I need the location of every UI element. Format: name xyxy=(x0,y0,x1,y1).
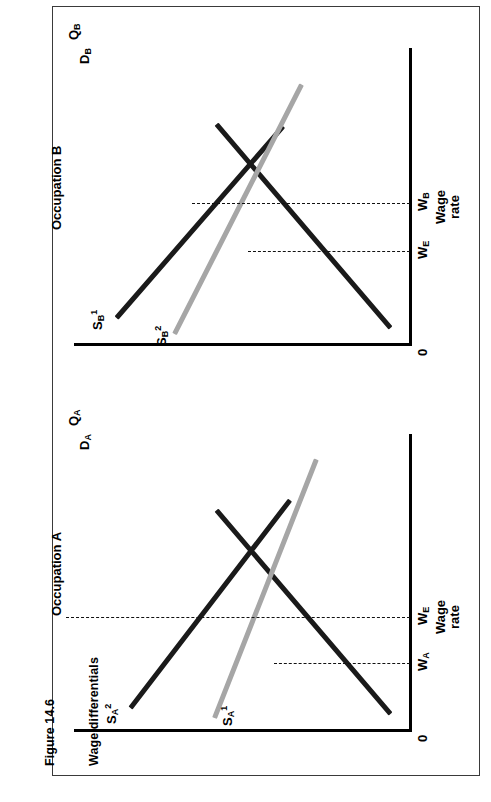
panel-b-curve-supply-1 xyxy=(115,125,285,320)
panel-a-x-axis xyxy=(409,434,412,732)
panel-a-x-axis-label: QA xyxy=(67,409,82,426)
panel-b-title: Occupation B xyxy=(50,145,63,230)
panel-b-curve-supply-2 xyxy=(172,83,304,335)
panel-b-label-supply-2: SB2 xyxy=(154,326,170,346)
panel-a-marker-wa: WA xyxy=(416,652,431,671)
panel-b-dashline-we xyxy=(248,251,410,252)
panel-b-label-supply-1: SB1 xyxy=(90,310,106,330)
panel-a-label-supply-2: SA2 xyxy=(104,704,120,724)
panel-b-marker-wb: WB xyxy=(416,192,431,211)
panel-b-y-axis xyxy=(74,343,412,346)
panel-b-origin-label: 0 xyxy=(416,349,429,356)
panel-b-y-axis-title: Wagerate xyxy=(434,162,462,252)
panel-occupation-b: SB2 SB1 DB QB WE WB 0 Wagerate xyxy=(52,10,480,380)
panel-a-origin-label: 0 xyxy=(416,735,429,742)
panel-a-marker-we: WE xyxy=(416,607,431,625)
panel-b-dashline-wb xyxy=(192,203,410,204)
panel-b-curve-demand xyxy=(215,123,393,330)
panel-a-y-axis xyxy=(74,729,412,732)
panel-a-label-supply-1: SA1 xyxy=(220,706,236,726)
panel-occupation-a: SA2 SA1 DA QA WA WE 0 Wagerate xyxy=(52,396,480,766)
panel-a-label-demand: DA xyxy=(78,434,93,450)
figure-page: Figure 14.6 Wage differentials SA2 SA1 xyxy=(0,0,491,802)
figure-stage: SA2 SA1 DA QA WA WE 0 Wagerate xyxy=(52,6,480,776)
panel-a-title: Occupation A xyxy=(50,532,63,616)
panel-a-curve-demand xyxy=(215,509,393,716)
panel-b-marker-we: WE xyxy=(416,241,431,259)
panel-a-curve-supply-2 xyxy=(129,499,292,710)
panel-a-y-axis-title: Wagerate xyxy=(434,572,462,662)
panel-a-dashline-we xyxy=(66,617,410,618)
panel-b-x-axis xyxy=(409,48,412,346)
panel-a-dashline-wa xyxy=(274,663,410,664)
panel-b-label-demand: DB xyxy=(78,48,93,64)
panel-b-x-axis-label: QB xyxy=(67,23,82,40)
panel-a-curve-supply-1 xyxy=(212,458,319,718)
